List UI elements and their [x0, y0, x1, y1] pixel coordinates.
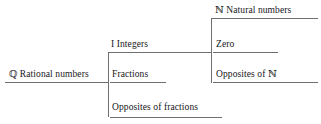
- underline-opposites-of-natural: [213, 82, 318, 83]
- node-label-opposites-of-natural: Opposites of ℕ: [216, 69, 277, 80]
- node-label-zero: Zero: [216, 39, 234, 50]
- node-label-rational-numbers: ℚ Rational numbers: [9, 69, 89, 80]
- node-label-fractions: Fractions: [112, 69, 148, 80]
- node-label-natural-numbers: ℕ Natural numbers: [215, 5, 291, 16]
- node-label-opposites-of-fractions: Opposites of fractions: [112, 102, 198, 113]
- underline-integers: [108, 52, 212, 53]
- number-classification-diagram: ℕ Natural numbers Zero Opposites of ℕ I …: [0, 0, 321, 124]
- connector-rational-branch: [108, 52, 109, 117]
- connector-integers-branch: [211, 18, 212, 83]
- underline-fractions: [110, 82, 166, 83]
- underline-rational-numbers: [5, 82, 109, 83]
- underline-opposites-of-fractions: [110, 117, 222, 118]
- underline-natural-numbers: [211, 18, 318, 19]
- underline-zero: [213, 52, 278, 53]
- node-label-integers: I Integers: [111, 39, 148, 50]
